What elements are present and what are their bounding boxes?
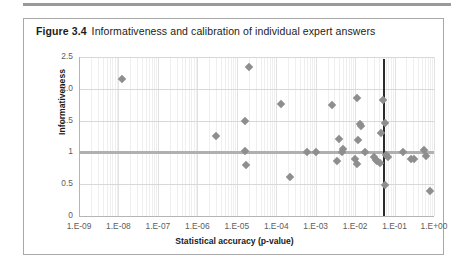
y-tick-label: 1.5 [39,115,73,125]
x-gridline-minor [98,57,99,216]
x-gridline-minor [233,57,234,216]
x-gridline-minor [274,57,275,216]
x-gridline-minor [353,57,354,216]
x-gridline-minor [351,57,352,216]
x-gridline-major [316,57,317,216]
x-gridline-minor [185,57,186,216]
data-point [212,132,220,140]
figure-container: Figure 3.4Informativeness and calibratio… [23,18,444,255]
x-gridline-minor [261,57,262,216]
x-gridline-minor [374,57,375,216]
x-gridline-minor [91,57,92,216]
x-gridline-minor [267,57,268,216]
x-gridline-minor [112,57,113,216]
chart-plot-area: Informativeness Statistical accuracy (p-… [24,19,445,256]
x-gridline-major [158,57,159,216]
data-point [285,172,293,180]
x-gridline-minor [312,57,313,216]
x-gridline-minor [170,57,171,216]
x-gridline-minor [406,57,407,216]
x-gridline-major [276,57,277,216]
y-tick-label: 0.5 [39,178,73,188]
x-gridline-minor [270,57,271,216]
x-gridline-minor [130,57,131,216]
x-gridline-minor [142,57,143,216]
page-top-rule [23,3,451,6]
data-point [328,101,336,109]
x-gridline-minor [343,57,344,216]
y-tick-label: 2.5 [39,51,73,61]
x-gridline-minor [418,57,419,216]
x-gridline-minor [334,57,335,216]
x-gridline-minor [115,57,116,216]
y-axis-line [79,57,80,216]
x-axis-title: Statistical accuracy (p-value) [24,236,445,246]
x-gridline-minor [367,57,368,216]
x-gridline-minor [191,57,192,216]
x-gridline-minor [209,57,210,216]
x-gridline-minor [152,57,153,216]
x-gridline-minor [328,57,329,216]
x-gridline-minor [425,57,426,216]
x-gridline-minor [231,57,232,216]
y-gridline [79,89,434,90]
x-gridline-minor [249,57,250,216]
x-gridline-minor [146,57,147,216]
x-gridline-major [395,57,396,216]
x-gridline-minor [154,57,155,216]
informativeness-unity-line [79,151,434,154]
y-tick-label: 1 [39,146,73,156]
x-gridline-minor [177,57,178,216]
x-tick-label: 1.E+00 [411,221,457,231]
x-gridline-minor [110,57,111,216]
x-gridline-minor [386,57,387,216]
y-tick-label: 0 [39,210,73,220]
x-gridline-minor [225,57,226,216]
x-gridline-minor [264,57,265,216]
x-gridline-minor [228,57,229,216]
x-gridline-minor [393,57,394,216]
x-gridline-minor [304,57,305,216]
x-gridline-minor [288,57,289,216]
x-gridline-minor [314,57,315,216]
x-axis-line [79,216,434,217]
x-gridline-minor [391,57,392,216]
x-gridline-minor [295,57,296,216]
x-gridline-minor [310,57,311,216]
x-gridline-minor [189,57,190,216]
x-gridline-minor [272,57,273,216]
x-gridline-minor [388,57,389,216]
x-gridline-minor [349,57,350,216]
data-point [361,148,369,156]
x-gridline-minor [149,57,150,216]
x-gridline-minor [221,57,222,216]
x-gridline-minor [346,57,347,216]
data-point [276,100,284,108]
x-gridline-minor [413,57,414,216]
data-point [241,116,249,124]
y-gridline [79,57,434,58]
x-gridline-minor [107,57,108,216]
x-gridline-major [434,57,435,216]
x-gridline-minor [256,57,257,216]
x-gridline-minor [235,57,236,216]
y-tick-label: 2.0 [39,83,73,93]
data-point [244,63,252,71]
x-gridline-minor [103,57,104,216]
x-gridline-major [197,57,198,216]
significance-threshold-line [383,59,385,216]
x-gridline-minor [137,57,138,216]
x-gridline-minor [182,57,183,216]
x-gridline-minor [194,57,195,216]
x-gridline-minor [156,57,157,216]
x-gridline-minor [307,57,308,216]
x-gridline-minor [300,57,301,216]
x-gridline-minor [422,57,423,216]
x-gridline-major [237,57,238,216]
